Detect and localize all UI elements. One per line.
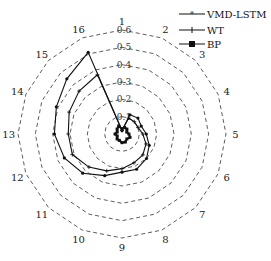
axis-label: 4 — [224, 86, 230, 97]
legend-label: VMD-LSTM — [206, 9, 266, 20]
axis-label: 14 — [11, 86, 24, 97]
legend-item-vmd-lstm: * VMD-LSTM — [179, 9, 266, 20]
series-vmd-lstm — [53, 51, 151, 178]
legend-label: WT — [207, 25, 224, 36]
axis-label: 13 — [2, 129, 15, 140]
axis-label: 2 — [162, 24, 168, 35]
radial-tick-label: 0.5 — [117, 42, 132, 52]
data-series — [53, 51, 151, 178]
axis-label: 6 — [224, 172, 230, 183]
axis-label: 7 — [199, 209, 205, 220]
axis-label: 10 — [72, 234, 85, 245]
radial-tick-label: 0.2 — [117, 94, 131, 104]
axis-label: 15 — [35, 49, 48, 60]
star-marker-icon: * — [190, 10, 194, 19]
legend-label: BP — [207, 39, 221, 50]
radial-tick-label: 0.4 — [117, 60, 132, 70]
axis-label: 8 — [162, 234, 168, 245]
series-wt — [66, 73, 148, 173]
legend: * VMD-LSTM WT BP — [179, 9, 266, 50]
grid-ring — [35, 47, 208, 220]
radial-tick-label: 0.3 — [117, 77, 132, 87]
series-bp — [114, 124, 132, 144]
radial-tick-labels: 0.10.20.30.40.50.6 — [117, 25, 132, 122]
radar-chart: 12345678910111213141516 0.10.20.30.40.50… — [0, 0, 271, 261]
axis-label: 12 — [11, 172, 24, 183]
axis-label: 3 — [199, 49, 205, 60]
legend-item-wt: WT — [179, 25, 224, 36]
axis-label: 11 — [35, 209, 48, 220]
axis-label: 5 — [232, 129, 238, 140]
axis-label: 9 — [119, 242, 125, 253]
axis-label: 16 — [72, 24, 85, 35]
radial-tick-label: 0.6 — [117, 25, 132, 35]
square-marker-icon — [189, 41, 195, 47]
